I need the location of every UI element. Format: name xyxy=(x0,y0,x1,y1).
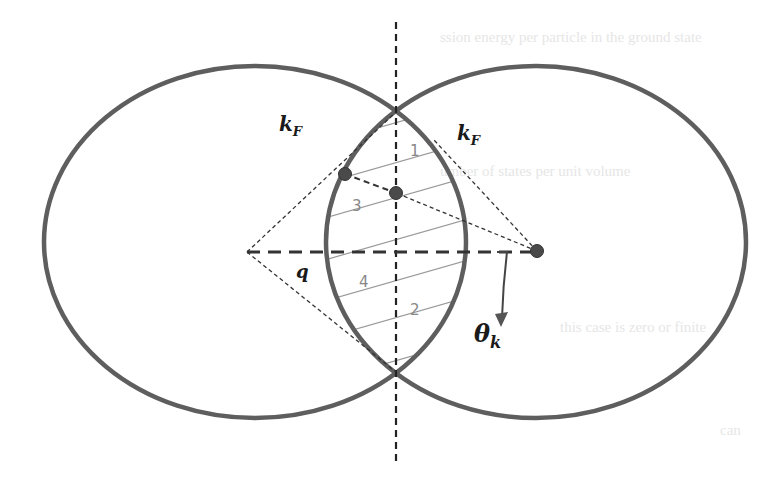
theta-k-label: θk xyxy=(474,319,501,352)
k-vector-dashed xyxy=(345,174,396,193)
theta-angle-arrow xyxy=(495,252,508,327)
faint-text-line: ssion energy per particle in the ground … xyxy=(440,29,702,45)
region-2-label: 2 xyxy=(410,301,420,319)
diagram-canvas: ssion energy per particle in the ground … xyxy=(0,0,784,485)
bleed-through-text: ssion energy per particle in the ground … xyxy=(440,29,741,438)
q-label: q xyxy=(296,261,309,282)
region-3-label: 3 xyxy=(352,197,362,215)
faint-text-line: this case is zero or finite xyxy=(560,319,707,335)
point-on-left-sphere xyxy=(339,168,352,181)
region-1-label: 1 xyxy=(410,142,420,160)
right-sphere-center xyxy=(531,245,544,258)
left-fermi-sphere xyxy=(44,66,466,418)
point-on-axis xyxy=(390,187,403,200)
kF-label-left: kF xyxy=(279,112,303,139)
region-4-label: 4 xyxy=(359,273,369,291)
faint-text-line: can xyxy=(720,422,741,438)
kF-label-right: kF xyxy=(457,121,481,148)
